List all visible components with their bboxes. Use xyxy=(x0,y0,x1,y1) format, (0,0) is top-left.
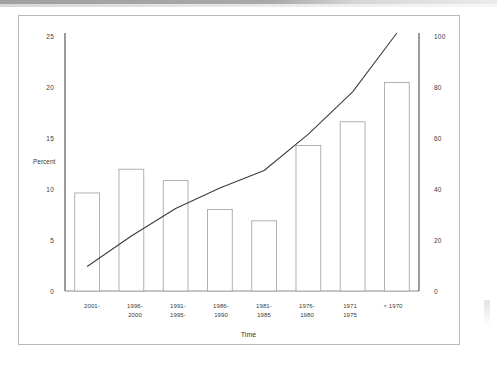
chart-bars xyxy=(75,83,410,291)
chart-plot-area xyxy=(0,0,497,366)
bar xyxy=(340,122,365,291)
bar xyxy=(207,209,232,291)
chart-axes xyxy=(65,33,419,291)
bar xyxy=(75,193,100,291)
bar xyxy=(296,145,321,291)
bar xyxy=(163,181,188,291)
bar xyxy=(384,83,409,291)
bar xyxy=(252,221,277,291)
